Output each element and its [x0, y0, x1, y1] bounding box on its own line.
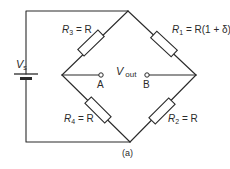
output-voltage-label: Vout	[116, 65, 137, 79]
terminal-a	[99, 73, 103, 77]
r3-label: R3 = R	[62, 24, 92, 36]
bottom-wire	[26, 79, 130, 142]
r2-label: R2 = R	[168, 113, 198, 125]
terminal-b-label: B	[143, 79, 150, 90]
terminal-a-label: A	[97, 79, 104, 90]
bridge-diagram: Vs R3 = R R1 = R(1 + δ) R4 = R R2 = R A …	[0, 0, 230, 169]
figure-caption: (a)	[122, 148, 133, 158]
r1-label: R1 = R(1 + δ)	[172, 24, 230, 36]
resistor-r1	[151, 31, 178, 57]
top-wire	[26, 11, 128, 74]
battery-icon	[14, 74, 38, 79]
terminal-b	[145, 73, 149, 77]
r4-label: R4 = R	[64, 113, 94, 125]
